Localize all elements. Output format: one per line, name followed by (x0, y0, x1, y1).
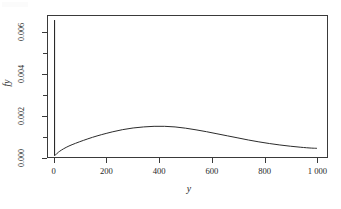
x-tick-label: 600 (205, 166, 218, 176)
x-tick-mark (212, 158, 213, 163)
density-curve-svg (48, 16, 327, 157)
x-tick-mark (54, 158, 55, 163)
x-axis-title: y (187, 183, 191, 194)
x-tick-label: 1 000 (308, 166, 327, 176)
x-tick-label: 200 (100, 166, 113, 176)
plot-area (47, 15, 328, 158)
y-tick-label: 0.002 (18, 116, 27, 134)
x-tick-label: 0 (51, 166, 55, 176)
x-tick-label: 800 (258, 166, 271, 176)
x-tick-mark (317, 158, 318, 163)
y-tick-label: 0.006 (18, 32, 27, 50)
y-tick-label: 0.004 (18, 74, 27, 92)
x-tick-mark (159, 158, 160, 163)
y-axis-title: fy (2, 80, 12, 87)
x-tick-mark (106, 158, 107, 163)
x-axis: y 02004006008001 000 (0, 158, 341, 209)
x-tick-mark (265, 158, 266, 163)
x-tick-label: 400 (153, 166, 166, 176)
density-curve-path (55, 20, 317, 155)
chart-figure: fy 0.0000.0020.0040.006 y 02004006008001… (0, 0, 341, 209)
